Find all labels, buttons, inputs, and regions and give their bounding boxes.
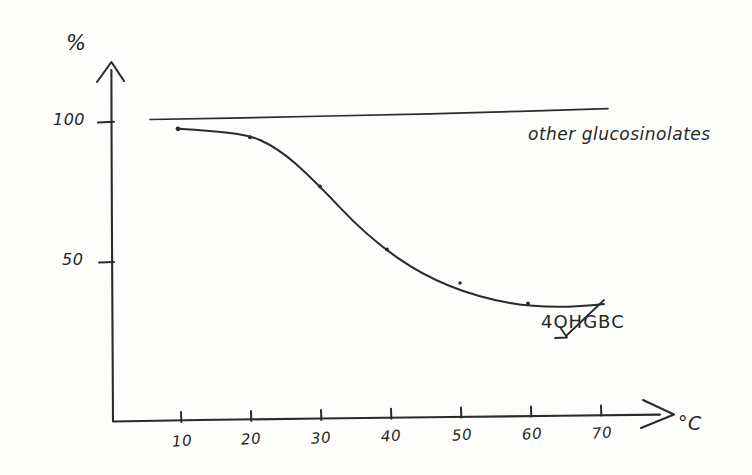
data-point-marker-30c [318, 185, 322, 189]
y-axis-label-100: 100 [53, 110, 85, 129]
data-point-marker-60c [526, 302, 530, 306]
series-line-4ohgbc [178, 129, 604, 307]
y-tick-50 [99, 262, 114, 263]
y-axis-label-50: 50 [62, 250, 83, 269]
series-annotation-other-glucosinolates: other glucosinolates [528, 124, 711, 144]
series-line-other-glucosinolates [150, 109, 608, 120]
y-tick-100 [98, 122, 114, 123]
x-axis-label-70: 70 [591, 423, 612, 442]
data-point-marker-40c [385, 248, 389, 252]
series-annotation-4ohgbc: 4OHGBC [541, 311, 625, 332]
x-axis-line [113, 415, 660, 422]
y-axis-title: % [66, 31, 86, 55]
x-axis-label-60: 60 [521, 424, 542, 443]
x-axis-label-50: 50 [451, 425, 472, 444]
data-point-marker-20c [248, 135, 252, 139]
data-point-marker-50c [458, 281, 462, 285]
x-axis-label-30: 30 [310, 428, 331, 447]
data-point-marker-10c [176, 126, 181, 131]
x-axis-title: °C [678, 412, 702, 434]
x-axis-label-20: 20 [240, 429, 261, 448]
x-axis-label-10: 10 [171, 431, 192, 450]
x-axis-label-40: 40 [380, 426, 401, 445]
hand-drawn-chart-figure: % °C 100 50 10 20 30 40 50 60 70 other g… [0, 0, 752, 475]
chart-canvas [0, 0, 752, 475]
